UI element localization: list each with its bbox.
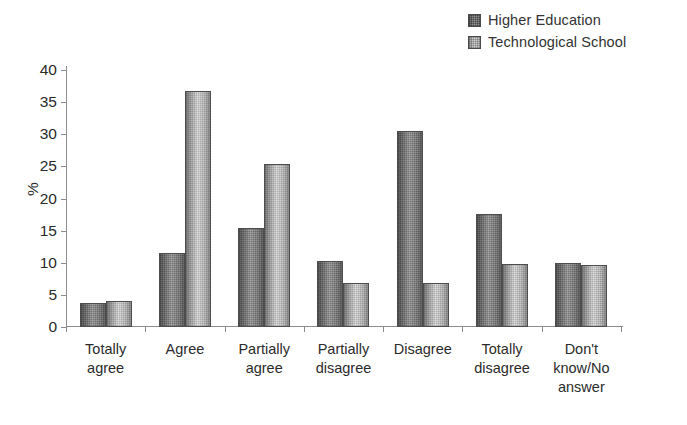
x-axis-separator-tick [621, 327, 622, 332]
bar-series-2[interactable] [423, 283, 449, 327]
legend-item-higher-education: Higher Education [468, 12, 626, 28]
y-axis-tick-label: 40 [40, 61, 57, 79]
y-axis-tick-label: 30 [40, 125, 57, 143]
bar-series-1[interactable] [397, 131, 423, 327]
category-label-line: Agree [145, 340, 224, 359]
x-axis-separator-tick [145, 327, 146, 332]
category-label-line: disagree [462, 359, 541, 378]
legend-label-series-1: Higher Education [488, 12, 601, 28]
bar-group [225, 70, 304, 327]
bar-series-1[interactable] [238, 228, 264, 327]
bar-series-2[interactable] [106, 301, 132, 327]
bar-series-1[interactable] [80, 303, 106, 327]
x-axis-separator-tick [383, 327, 384, 332]
bar-series-1[interactable] [159, 253, 185, 327]
y-axis-tick-label: 15 [40, 222, 57, 240]
x-axis-separator-tick [304, 327, 305, 332]
category-label-line: Partially [304, 340, 383, 359]
x-axis-separator-tick [542, 327, 543, 332]
chart-plot-area: 0510152025303540 [66, 70, 621, 327]
bar-series-1[interactable] [317, 261, 343, 327]
y-axis-tick-label: 35 [40, 93, 57, 111]
bar-series-2[interactable] [264, 164, 290, 327]
bar-series-2[interactable] [343, 283, 369, 327]
category-label-line: agree [66, 359, 145, 378]
category-label-line: Partially [225, 340, 304, 359]
bar-series-1[interactable] [555, 263, 581, 327]
x-axis-category-label: Partiallyagree [225, 340, 304, 378]
x-axis-category-label: Partiallydisagree [304, 340, 383, 378]
bar-group [66, 70, 145, 327]
x-axis-separator-tick [66, 327, 67, 332]
bar-series-2[interactable] [502, 264, 528, 327]
bar-group [383, 70, 462, 327]
category-label-line: disagree [304, 359, 383, 378]
bar-series-2[interactable] [581, 265, 607, 327]
bar-group [542, 70, 621, 327]
category-label-line: Totally [462, 340, 541, 359]
legend-item-technological-school: Technological School [468, 34, 626, 50]
x-axis-separator-tick [462, 327, 463, 332]
y-axis-tick-label: 0 [48, 318, 57, 336]
chart-legend: Higher Education Technological School [468, 12, 626, 50]
y-axis-tick-label: 20 [40, 190, 57, 208]
bar-group [145, 70, 224, 327]
bar-series-2[interactable] [185, 91, 211, 327]
legend-label-series-2: Technological School [488, 34, 626, 50]
category-label-line: answer [542, 378, 621, 397]
category-label-line: agree [225, 359, 304, 378]
y-axis-tick-label: 25 [40, 157, 57, 175]
category-label-line: Don't [542, 340, 621, 359]
x-axis-category-label: Totallydisagree [462, 340, 541, 378]
bar-group [304, 70, 383, 327]
category-label-line: know/No [542, 359, 621, 378]
category-label-line: Totally [66, 340, 145, 359]
category-label-line: Disagree [383, 340, 462, 359]
bar-group [462, 70, 541, 327]
y-axis-tick-label: 10 [40, 254, 57, 272]
legend-swatch-icon-series-1 [468, 14, 481, 27]
y-axis-tick-label: 5 [48, 286, 57, 304]
x-axis-separator-tick [225, 327, 226, 332]
x-axis-category-label: Don'tknow/Noanswer [542, 340, 621, 397]
x-axis-category-label: Totallyagree [66, 340, 145, 378]
x-axis-category-label: Disagree [383, 340, 462, 359]
legend-swatch-icon-series-2 [468, 36, 481, 49]
bar-series-1[interactable] [476, 214, 502, 327]
x-axis-category-label: Agree [145, 340, 224, 359]
